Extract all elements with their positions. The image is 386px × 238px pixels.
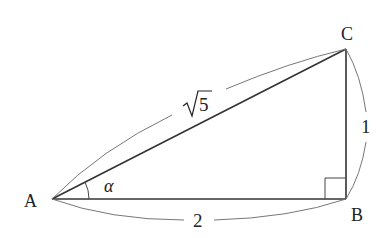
vertex-label-b: B [351, 205, 363, 225]
brace-bc-top [346, 49, 366, 112]
brace-bc-bottom [346, 142, 366, 199]
triangle-diagram: A B C 5 1 2 α [0, 0, 386, 238]
side-label-ac: 5 [183, 91, 212, 116]
side-ac [52, 49, 346, 199]
side-label-ab: 2 [193, 210, 203, 231]
angle-label-alpha: α [104, 176, 114, 196]
vertex-label-c: C [341, 24, 353, 44]
brace-ab-right [214, 199, 346, 220]
right-angle-marker [325, 178, 346, 199]
brace-ab-left [52, 199, 184, 220]
side-ac-value: 5 [199, 94, 209, 115]
brace-ac-right [226, 49, 346, 89]
angle-alpha-arc [85, 182, 89, 199]
side-label-bc: 1 [361, 116, 371, 137]
vertex-label-a: A [24, 191, 37, 211]
